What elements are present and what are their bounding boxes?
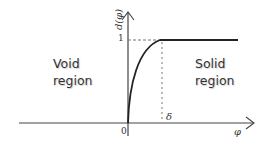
- origin-label: 0: [121, 126, 127, 136]
- transition-curve: [128, 40, 160, 123]
- void-region-label: Void region: [53, 55, 93, 89]
- y-axis-label: d(φ): [113, 9, 124, 30]
- x-axis-label: φ: [234, 126, 241, 137]
- delta-label: δ: [166, 111, 172, 122]
- solid-region-line1: Solid: [195, 55, 235, 72]
- diagram-canvas: d(φ) 1 0 δ φ Void region Solid region: [0, 0, 270, 153]
- solid-region-line2: region: [195, 72, 235, 89]
- void-region-line2: region: [53, 72, 93, 89]
- void-region-line1: Void: [53, 55, 93, 72]
- solid-region-label: Solid region: [195, 55, 235, 89]
- y-tick-one: 1: [118, 33, 124, 43]
